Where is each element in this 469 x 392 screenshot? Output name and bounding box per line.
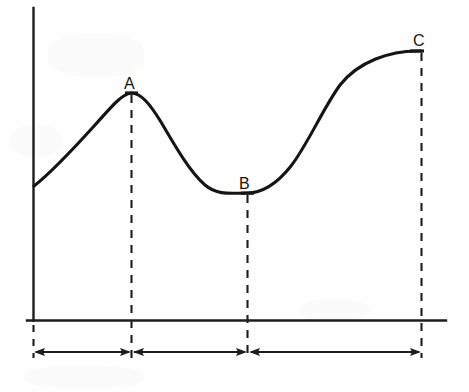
dimension-arrow-a-to-b: [133, 348, 247, 356]
data-curve: [34, 51, 421, 193]
chart-figure: A B C: [0, 0, 469, 392]
label-point-c: C: [413, 32, 425, 49]
dimension-arrow-origin-to-a: [34, 348, 131, 356]
label-point-a: A: [124, 75, 135, 92]
label-point-b: B: [239, 175, 250, 192]
dimension-arrow-b-to-c: [249, 348, 421, 356]
chart-canvas: A B C: [0, 0, 469, 392]
